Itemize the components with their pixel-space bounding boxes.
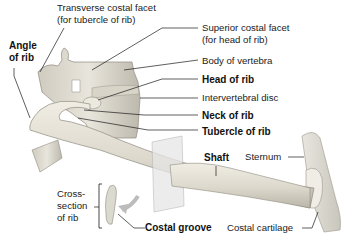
cross-section-bracket — [99, 184, 102, 228]
rib-illustration — [0, 0, 348, 242]
label-tubercle-of-rib: Tubercle of rib — [202, 126, 271, 138]
label-neck-of-rib: Neck of rib — [202, 110, 254, 122]
label-costal-groove: Costal groove — [145, 222, 212, 234]
label-body-of-vertebra: Body of vertebra — [202, 55, 272, 67]
label-angle-of-rib: Angle of rib — [9, 40, 37, 64]
label-line: Angle — [9, 40, 37, 52]
label-line: (for head of rib) — [202, 34, 289, 46]
label-line: of rib — [57, 212, 87, 224]
label-shaft: Shaft — [204, 152, 229, 164]
label-intervertebral-disc: Intervertebral disc — [202, 92, 278, 104]
label-line: Superior costal facet — [202, 22, 289, 34]
label-costal-cartilage: Costal cartilage — [227, 222, 293, 234]
cross-section-shape — [106, 185, 117, 224]
transverse-process-lower — [32, 140, 62, 172]
label-line: of rib — [9, 52, 37, 64]
label-line: section — [57, 200, 87, 212]
label-superior-costal-facet: Superior costal facet (for head of rib) — [202, 22, 289, 46]
label-transverse-costal-facet: Transverse costal facet (for tubercle of… — [57, 2, 156, 26]
rib-anatomy-figure: Transverse costal facet (for tubercle of… — [0, 0, 348, 242]
label-line: Cross- — [57, 188, 87, 200]
label-line: Transverse costal facet — [57, 2, 156, 14]
label-line: (for tubercle of rib) — [57, 14, 156, 26]
label-head-of-rib: Head of rib — [202, 74, 254, 86]
label-cross-section-of-rib: Cross- section of rib — [57, 188, 87, 224]
label-sternum: Sternum — [245, 151, 281, 163]
